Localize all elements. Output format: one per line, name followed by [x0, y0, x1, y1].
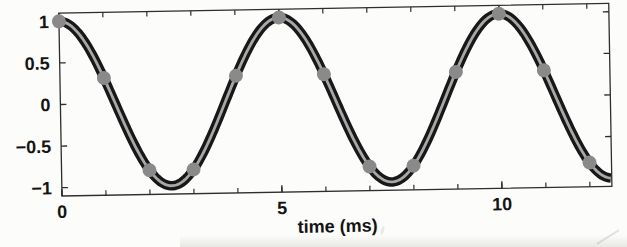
- plot-group: −1−0.500.510510time (ms): [13, 2, 612, 242]
- cosine-chart: −1−0.500.510510time (ms): [0, 0, 627, 247]
- cosine-sampling-figure: −1−0.500.510510time (ms): [0, 0, 627, 247]
- x-tick-label: 10: [492, 194, 512, 214]
- y-tick-label: −1: [31, 178, 52, 198]
- y-tick-label: 1: [39, 12, 49, 32]
- x-tick-label: 5: [277, 198, 287, 218]
- x-tick-label: 0: [57, 202, 67, 222]
- y-tick-label: 0: [40, 95, 50, 115]
- x-axis-title: time (ms): [297, 215, 377, 236]
- y-tick-label: 0.5: [24, 54, 49, 74]
- y-tick-label: −0.5: [15, 137, 51, 158]
